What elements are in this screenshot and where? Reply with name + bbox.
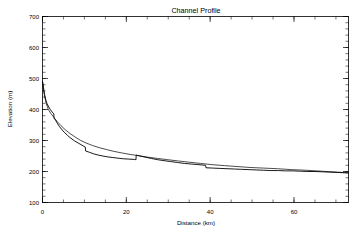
svg-text:500: 500 <box>29 76 40 82</box>
x-axis-label: Distance (km) <box>177 219 215 226</box>
svg-text:60: 60 <box>291 209 298 215</box>
svg-text:700: 700 <box>29 14 40 20</box>
y-axis-label: Elevation (m) <box>6 91 13 127</box>
svg-text:100: 100 <box>29 200 40 206</box>
chart-background <box>0 0 363 233</box>
svg-text:200: 200 <box>29 169 40 175</box>
svg-text:600: 600 <box>29 45 40 51</box>
svg-text:20: 20 <box>123 209 130 215</box>
svg-text:400: 400 <box>29 107 40 113</box>
svg-text:40: 40 <box>207 209 214 215</box>
chart-title: Channel Profile <box>171 6 220 15</box>
channel-profile-chart: Channel Profile 0204060 1002003004005006… <box>0 0 363 233</box>
chart-figure: Channel Profile 0204060 1002003004005006… <box>0 0 363 233</box>
svg-text:300: 300 <box>29 138 40 144</box>
